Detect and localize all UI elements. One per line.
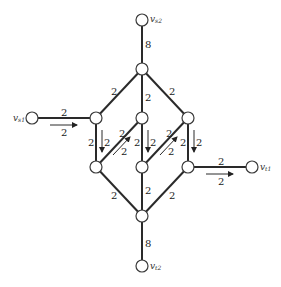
label-vs2: vs2 — [150, 14, 162, 24]
capacity-vs2-top: 8 — [145, 39, 151, 50]
node-bottom — [136, 210, 148, 222]
capacity-rm-rl: 2 — [180, 137, 186, 148]
node-vt2 — [136, 260, 148, 272]
flow-rl-vt1: 2 — [218, 176, 224, 187]
capacity-bot-vt2: 8 — [145, 238, 151, 249]
node-right-mid — [182, 112, 194, 124]
flow-vs1-lm: 2 — [61, 127, 67, 138]
edge-ll-bot — [96, 167, 142, 216]
flow-lm-ll: 2 — [104, 137, 110, 148]
node-left-low — [90, 161, 102, 173]
capacity-ll-cm: 2 — [119, 128, 125, 139]
node-top — [136, 63, 148, 75]
node-right-low — [182, 161, 194, 173]
capacity-top-rm: 2 — [169, 86, 175, 97]
capacity-top-cm: 2 — [145, 92, 151, 103]
edge-top-lm — [96, 69, 142, 118]
node-center-low — [136, 161, 148, 173]
node-vs1 — [26, 112, 38, 124]
flow-cm-cl: 2 — [150, 137, 156, 148]
capacity-vs1-lm: 2 — [61, 107, 67, 118]
capacity-ll-bot: 2 — [111, 190, 117, 201]
flow-network-diagram: 8 2 2 2 2 2 2 2 2 2 2 2 2 2 2 2 2 2 2 2 … — [0, 0, 281, 287]
capacity-top-lm: 2 — [111, 86, 117, 97]
node-vs2 — [136, 14, 148, 26]
node-vt1 — [246, 161, 258, 173]
capacity-rl-bot: 2 — [169, 190, 175, 201]
label-vt2: vt2 — [150, 261, 162, 271]
edges — [32, 20, 252, 266]
flow-rm-rl: 2 — [196, 137, 202, 148]
flow-ll-cm: 2 — [121, 146, 127, 157]
node-left-mid — [90, 112, 102, 124]
capacity-cl-bot: 2 — [145, 185, 151, 196]
capacity-cm-cl: 2 — [134, 137, 140, 148]
capacity-cl-rm: 2 — [166, 128, 172, 139]
label-vt1: vt1 — [260, 162, 271, 172]
capacity-rl-vt1: 2 — [218, 156, 224, 167]
node-center-mid — [136, 112, 148, 124]
label-vs1: vs1 — [13, 113, 25, 123]
capacity-lm-ll: 2 — [88, 137, 94, 148]
flow-cl-rm: 2 — [168, 146, 174, 157]
